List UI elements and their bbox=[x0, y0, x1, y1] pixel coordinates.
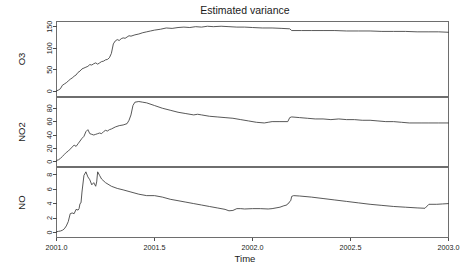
y-tick-label: 6 bbox=[45, 187, 54, 191]
y-tick-label: 150 bbox=[45, 21, 54, 33]
x-tick-label: 2001.0 bbox=[46, 243, 68, 252]
chart-background bbox=[0, 0, 462, 275]
y-tick-label: 4 bbox=[45, 202, 54, 206]
y-tick-label: 8 bbox=[45, 173, 54, 177]
x-tick-label: 2002.5 bbox=[340, 243, 362, 252]
y-tick-label: 50 bbox=[45, 66, 54, 74]
y-tick-label: 80 bbox=[45, 104, 54, 112]
y-tick-label: 0 bbox=[45, 160, 54, 164]
y-axis-title-o3: O3 bbox=[16, 53, 27, 66]
y-axis-title-no2: NO2 bbox=[16, 122, 27, 142]
y-tick-label: 60 bbox=[45, 118, 54, 126]
x-axis-title: Time bbox=[235, 253, 256, 264]
y-tick-label: 0 bbox=[45, 230, 54, 234]
y-tick-label: 0 bbox=[45, 89, 54, 93]
y-tick-label: 40 bbox=[45, 131, 54, 139]
chart-canvas: Estimated variance 050100150O3020406080N… bbox=[0, 0, 462, 275]
y-axis-title-no: NO bbox=[16, 195, 27, 209]
y-tick-label: 100 bbox=[45, 42, 54, 54]
x-tick-label: 2001.5 bbox=[144, 243, 166, 252]
y-tick-label: 2 bbox=[45, 216, 54, 220]
x-tick-label: 2002.0 bbox=[242, 243, 264, 252]
y-tick-label: 20 bbox=[45, 144, 54, 152]
ts-plot-figure: Estimated variance 050100150O3020406080N… bbox=[0, 0, 462, 275]
page-title: Estimated variance bbox=[200, 4, 289, 16]
x-tick-label: 2003.0 bbox=[438, 243, 460, 252]
